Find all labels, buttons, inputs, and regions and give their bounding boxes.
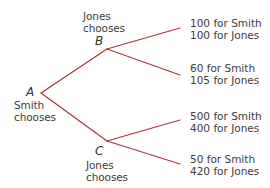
node-a-chooser-line1: Smith <box>14 99 56 111</box>
node-b-chooser-line2: chooses <box>83 22 125 34</box>
outcome-3-payoff: 500 for Smith 400 for Jones <box>190 110 262 134</box>
node-b-chooser-line1: Jones <box>83 10 125 22</box>
node-c-chooser-line1: Jones <box>86 159 128 171</box>
outcome-3-jones: 400 for Jones <box>190 122 262 134</box>
node-a-chooser-line2: chooses <box>14 111 56 123</box>
node-c-chooser-line2: chooses <box>86 171 128 183</box>
outcome-1-smith: 100 for Smith <box>190 17 262 29</box>
outcome-4-smith: 50 for Smith <box>190 153 259 165</box>
outcome-1-jones: 100 for Jones <box>190 29 262 41</box>
node-c-letter: C <box>95 145 103 158</box>
node-a-chooser-label: Smith chooses <box>14 99 56 123</box>
outcome-2-payoff: 60 for Smith 105 for Jones <box>190 62 259 86</box>
outcome-1-payoff: 100 for Smith 100 for Jones <box>190 17 262 41</box>
edge-a-b <box>41 49 107 93</box>
node-b-letter: B <box>95 35 103 48</box>
edge-b-outcome-2 <box>107 49 180 75</box>
edge-c-outcome-3 <box>107 120 180 141</box>
outcome-4-jones: 420 for Jones <box>190 165 259 177</box>
node-a-letter: A <box>26 86 34 99</box>
node-b-chooser-label: Jones chooses <box>83 10 125 34</box>
outcome-4-payoff: 50 for Smith 420 for Jones <box>190 153 259 177</box>
outcome-3-smith: 500 for Smith <box>190 110 262 122</box>
node-c-chooser-label: Jones chooses <box>86 159 128 183</box>
outcome-2-smith: 60 for Smith <box>190 62 259 74</box>
outcome-2-jones: 105 for Jones <box>190 74 259 86</box>
